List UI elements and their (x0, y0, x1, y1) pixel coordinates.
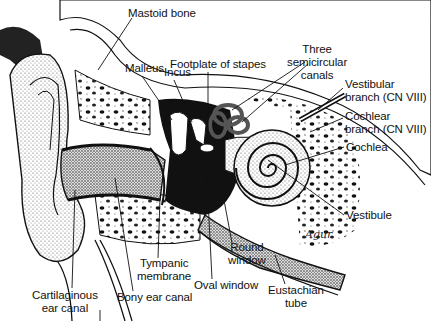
ear-illustration (0, 0, 431, 321)
cochlea-shape (234, 130, 310, 206)
label-line: ear canal (32, 302, 98, 315)
label-line: semicircular (287, 56, 347, 69)
label-vestibular-branch: Vestibular branch (CN VIII) (345, 78, 426, 104)
label-line: Cartilaginous (32, 289, 98, 302)
malleus-shape (170, 112, 188, 155)
label-line: window (228, 254, 266, 267)
label-line: canals (287, 69, 347, 82)
label-cartilaginous-ear-canal: Cartilaginous ear canal (32, 289, 98, 315)
label-bony-ear-canal: Bony ear canal (117, 291, 192, 304)
label-mastoid-bone: Mastoid bone (128, 7, 196, 20)
label-tympanic-membrane: Tympanic membrane (137, 257, 191, 283)
ear-anatomy-diagram: Mastoid bone Malleus Incus Footplate of … (0, 0, 431, 321)
label-malleus: Malleus (125, 62, 164, 75)
label-line: membrane (137, 270, 191, 283)
label-eustachian-tube: Eustachian tube (268, 284, 324, 310)
label-line: Round (228, 241, 266, 254)
label-line: Three (287, 43, 347, 56)
label-line: branch (CN VIII) (345, 91, 426, 104)
label-line: Vestibular (345, 78, 426, 91)
ear-canal (61, 145, 165, 200)
label-cochlea: Cochlea (346, 141, 388, 154)
label-three-semicircular-canals: Three semicircular canals (287, 43, 347, 82)
label-footplate-of-stapes: Footplate of stapes (170, 58, 266, 71)
label-round-window: Round window (228, 241, 266, 267)
label-line: Cochlear (345, 110, 426, 123)
stapes-shape (200, 144, 214, 152)
label-line: Eustachian (268, 284, 324, 297)
label-oval-window: Oval window (194, 279, 258, 292)
label-cochlear-branch: Cochlear branch (CN VIII) (345, 110, 426, 136)
label-vestibule: Vestibule (346, 209, 392, 222)
artist-signature: Agur (305, 228, 332, 241)
label-line: Tympanic (137, 257, 191, 270)
label-line: tube (268, 297, 324, 310)
mastoid-bone-region (75, 70, 150, 135)
label-line: branch (CN VIII) (345, 123, 426, 136)
